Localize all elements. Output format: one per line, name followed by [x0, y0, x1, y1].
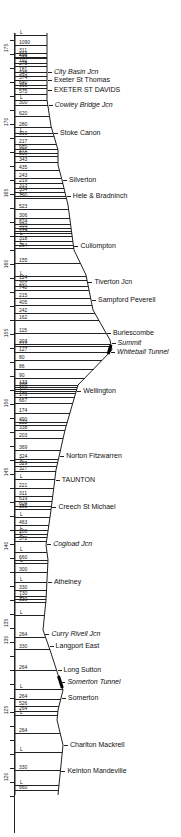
station-name: City Basin Jcn — [54, 68, 98, 75]
station-label: Keinton Mandeville — [61, 767, 126, 775]
station-label: Creech St Michael — [52, 503, 115, 511]
station-name: Curry Rivell Jcn — [51, 630, 100, 637]
station-label: Stoke Canon — [54, 129, 100, 137]
station-name: EXETER ST DAVIDS — [54, 86, 120, 93]
station-tick-icon — [77, 391, 81, 392]
station-tick-icon — [107, 333, 111, 334]
station-name: Cogload Jcn — [53, 540, 92, 547]
station-tick-icon — [52, 507, 56, 508]
station-name: Stoke Canon — [60, 129, 100, 136]
station-label: Somerton — [62, 694, 98, 702]
station-tick-icon — [50, 646, 54, 647]
station-label: Somerton Tunnel — [61, 678, 120, 686]
station-name: Charlton Mackrell — [70, 741, 124, 748]
station-name: Athelney — [54, 578, 81, 585]
station-name: TAUNTON — [62, 476, 95, 483]
station-tick-icon — [67, 196, 71, 197]
station-label: TAUNTON — [56, 476, 95, 484]
station-label: Cullompton — [74, 242, 115, 250]
station-label: EXETER ST DAVIDS — [48, 86, 120, 94]
station-name: Keinton Mandeville — [67, 767, 126, 774]
station-tick-icon — [54, 133, 58, 134]
station-tick-icon — [58, 670, 62, 671]
station-tick-icon — [60, 456, 64, 457]
station-label: Norton Fitzwarren — [60, 452, 122, 460]
station-tick-icon — [62, 698, 66, 699]
station-label: Curry Rivell Jcn — [45, 630, 100, 638]
station-label: Long Sutton — [58, 666, 102, 674]
station-name: Tiverton Jcn — [94, 278, 132, 285]
station-label: Charlton Mackrell — [64, 741, 124, 749]
station-tick-icon — [111, 352, 115, 353]
station-tick-icon — [48, 72, 52, 73]
station-name: Somerton — [68, 694, 98, 701]
station-tick-icon — [56, 480, 60, 481]
station-name: Cullompton — [80, 242, 115, 249]
station-tick-icon — [45, 634, 49, 635]
station-label: Langport East — [50, 642, 100, 650]
station-name: Langport East — [56, 642, 100, 649]
station-label: Whiteball Tunnel — [111, 348, 169, 356]
station-label: Sampford Peverell — [92, 296, 156, 304]
station-tick-icon — [112, 343, 116, 344]
station-tick-icon — [47, 544, 51, 545]
station-tick-icon — [74, 246, 78, 247]
station-label: Cogload Jcn — [47, 540, 92, 548]
station-name: Norton Fitzwarren — [66, 452, 122, 459]
station-tick-icon — [61, 682, 65, 683]
station-label: Tiverton Jcn — [88, 278, 132, 286]
station-label: Cowley Bridge Jcn — [49, 101, 113, 109]
station-name: Exeter St Thomas — [54, 76, 110, 83]
station-tick-icon — [88, 282, 92, 283]
station-label: Wellington — [77, 387, 116, 395]
gradient-profile-chart: 175170165160155150145140135130125120 L10… — [0, 0, 181, 837]
station-name: Somerton Tunnel — [67, 678, 120, 685]
station-label: Silverton — [63, 176, 96, 184]
profile-line — [0, 0, 181, 837]
station-name: Whiteball Tunnel — [117, 348, 169, 355]
station-name: Burlescombe — [113, 329, 154, 336]
station-name: Silverton — [69, 176, 96, 183]
station-name: Long Sutton — [64, 666, 102, 673]
station-name: Creech St Michael — [58, 503, 115, 510]
station-label: Athelney — [48, 578, 81, 586]
station-label: Summit — [112, 339, 142, 347]
station-name: Sampford Peverell — [98, 296, 156, 303]
station-tick-icon — [49, 105, 53, 106]
station-name: Hele & Bradninch — [73, 192, 127, 199]
station-tick-icon — [63, 180, 67, 181]
station-label: Burlescombe — [107, 329, 154, 337]
station-tick-icon — [61, 771, 65, 772]
station-tick-icon — [48, 90, 52, 91]
station-label: Hele & Bradninch — [67, 192, 127, 200]
station-name: Summit — [118, 339, 142, 346]
station-label: City Basin Jcn — [48, 68, 98, 76]
station-name: Cowley Bridge Jcn — [55, 101, 113, 108]
station-tick-icon — [48, 80, 52, 81]
station-label: Exeter St Thomas — [48, 76, 110, 84]
station-tick-icon — [64, 745, 68, 746]
station-tick-icon — [48, 582, 52, 583]
station-name: Wellington — [83, 387, 116, 394]
station-tick-icon — [92, 300, 96, 301]
